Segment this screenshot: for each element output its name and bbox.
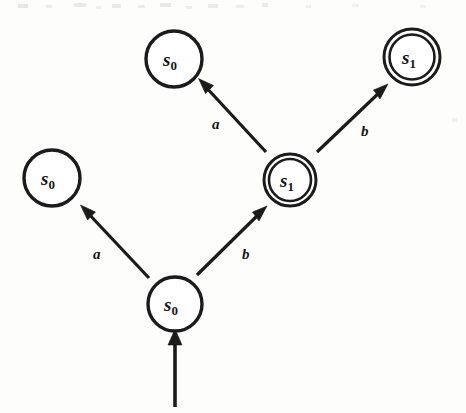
transition-b-lower-right-line xyxy=(197,212,261,275)
transition-b-upper-right-line xyxy=(317,90,382,152)
transition-b-lower-right xyxy=(197,206,267,275)
state-s0-top-left[interactable]: s0 xyxy=(146,31,202,87)
transition-label-b-upper: b xyxy=(361,123,369,139)
transition-b-upper-right xyxy=(317,84,388,152)
start-state-arrow xyxy=(168,329,182,407)
transition-label-b-lower: b xyxy=(242,246,250,262)
state-s0-left[interactable]: s0 xyxy=(24,150,80,206)
automaton-figure: top-left s0 --> top-right s1 --> left s0… xyxy=(0,0,466,413)
state-s0-start[interactable]: s0 xyxy=(148,277,202,331)
transition-a-upper-left xyxy=(199,79,267,153)
automaton-diagram-svg: top-left s0 --> top-right s1 --> left s0… xyxy=(0,0,466,413)
transition-a-lower-left-line xyxy=(86,211,149,278)
transition-label-a-upper: a xyxy=(212,116,220,132)
transition-label-a-lower: a xyxy=(93,246,101,262)
state-s1-top-right[interactable]: s1 xyxy=(384,29,440,85)
transition-a-lower-left xyxy=(81,205,150,278)
state-s1-center[interactable]: s1 xyxy=(264,154,316,206)
